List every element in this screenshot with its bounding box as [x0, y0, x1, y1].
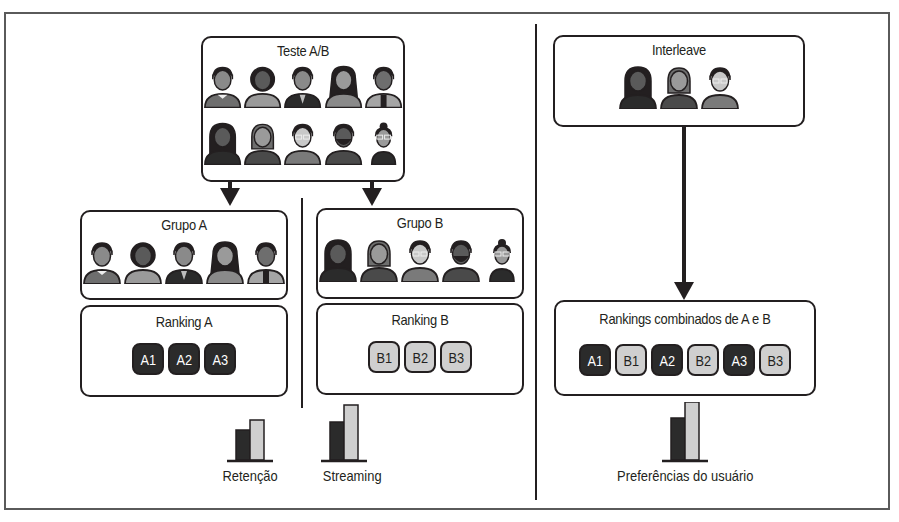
ranking-b-items: B1 B2 B3: [318, 341, 522, 373]
metric-retention-label: Retenção: [222, 467, 277, 484]
ranking-a-box: Ranking A A1 A2 A3: [80, 305, 288, 397]
chip-label: A3: [212, 351, 228, 368]
divider-middle: [301, 198, 303, 408]
interleave-title: Interleave: [572, 41, 785, 58]
ranking-chip-b3: B3: [759, 344, 791, 376]
arrow-to-group-a-head: [220, 188, 240, 206]
arrow-to-group-b-head: [362, 188, 382, 206]
ranking-chip-b1: B1: [615, 344, 647, 376]
person-icon: [441, 238, 481, 282]
combined-ranking-box: Rankings combinados de A e B A1B1A2B2A3B…: [554, 300, 816, 396]
combined-ranking-items: A1B1A2B2A3B3: [556, 344, 814, 376]
group-a-box: Grupo A: [80, 210, 288, 300]
metric-preferences: Preferências do usuário: [585, 402, 785, 485]
metric-streaming: Streaming: [312, 402, 392, 485]
chip-label: A1: [587, 352, 603, 369]
group-b-title: Grupo B: [332, 214, 507, 231]
ranking-b-title: Ranking B: [332, 311, 507, 328]
person-icon: [205, 240, 245, 284]
person-icon: [283, 121, 322, 165]
person-icon: [164, 240, 204, 284]
person-icon: [659, 65, 699, 109]
person-icon: [482, 238, 522, 282]
ranking-b-box: Ranking B B1 B2 B3: [316, 303, 524, 395]
chip-label: A2: [659, 352, 675, 369]
chip-label: A1: [140, 351, 156, 368]
bar-chart-icon: [225, 402, 275, 464]
ranking-chip-b1: B1: [368, 341, 400, 373]
ranking-chip-b2: B2: [687, 344, 719, 376]
group-b-box: Grupo B: [316, 208, 524, 299]
ranking-chip-a1: A1: [579, 344, 611, 376]
person-icon: [324, 64, 363, 108]
ranking-chip-b2: B2: [404, 341, 436, 373]
person-icon: [324, 121, 363, 165]
chip-label: B3: [448, 349, 464, 366]
bar-chart-icon: [319, 402, 369, 464]
person-icon: [359, 238, 399, 282]
ranking-chip-a1: A1: [132, 343, 164, 375]
ranking-chip-a3: A3: [204, 343, 236, 375]
ab-test-people-row-2: [203, 121, 403, 165]
ranking-chip-a2: A2: [651, 344, 683, 376]
group-a-people: [82, 240, 286, 284]
arrow-to-combined-head: [674, 282, 694, 300]
chip-label: B1: [376, 349, 392, 366]
ab-test-people-row-1: [203, 64, 403, 108]
combined-ranking-title: Rankings combinados de A e B: [574, 310, 796, 327]
person-icon: [246, 240, 286, 284]
person-icon: [243, 64, 282, 108]
chip-label: B3: [767, 352, 783, 369]
metric-preferences-label: Preferências do usuário: [617, 467, 753, 484]
group-a-title: Grupo A: [96, 216, 271, 233]
interleave-people: [555, 65, 803, 109]
person-icon: [400, 238, 440, 282]
metric-streaming-label: Streaming: [323, 467, 382, 484]
person-icon: [364, 121, 403, 165]
bar-chart-icon: [660, 402, 710, 464]
person-icon: [700, 65, 740, 109]
metric-retention: Retenção: [210, 402, 290, 485]
person-icon: [283, 64, 322, 108]
ranking-chip-a3: A3: [723, 344, 755, 376]
chip-label: B2: [412, 349, 428, 366]
person-icon: [318, 238, 358, 282]
interleave-box: Interleave: [553, 35, 805, 127]
person-icon: [123, 240, 163, 284]
ranking-a-title: Ranking A: [96, 313, 271, 330]
chip-label: B1: [623, 352, 639, 369]
divider-right: [535, 24, 537, 500]
chip-label: A2: [176, 351, 192, 368]
chip-label: B2: [695, 352, 711, 369]
person-icon: [364, 64, 403, 108]
person-icon: [243, 121, 282, 165]
person-icon: [618, 65, 658, 109]
ranking-a-items: A1 A2 A3: [82, 343, 286, 375]
ab-test-title: Teste A/B: [217, 42, 389, 59]
chip-label: A3: [731, 352, 747, 369]
person-icon: [82, 240, 122, 284]
ranking-chip-b3: B3: [440, 341, 472, 373]
ab-test-box: Teste A/B: [201, 36, 405, 182]
arrow-to-combined-shaft: [682, 127, 686, 287]
person-icon: [203, 64, 242, 108]
person-icon: [203, 121, 242, 165]
group-b-people: [318, 238, 522, 282]
ranking-chip-a2: A2: [168, 343, 200, 375]
